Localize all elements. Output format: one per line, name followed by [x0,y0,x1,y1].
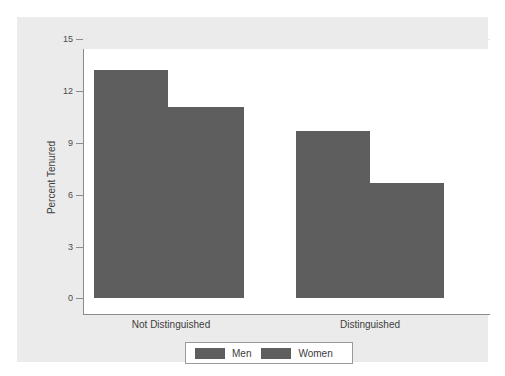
chart-panel: 15 12 9 6 3 0 Percent Tenured Not Distin… [17,17,488,362]
legend-swatch-men [195,348,225,359]
legend-label-men: Men [232,348,251,359]
chart-figure: 15 12 9 6 3 0 Percent Tenured Not Distin… [0,0,505,376]
y-tick-label-12-wrap: 12 [45,86,73,96]
chart-legend: Men Women [185,342,353,364]
y-tick-mark-9 [76,143,83,144]
y-tick-label-12: 12 [49,86,73,96]
bar-distinguished-women [370,183,444,298]
y-tick-label-15-wrap: 15 [45,34,73,44]
y-axis-title: Percent Tenured [46,98,57,258]
y-tick-mark-15 [76,39,83,40]
legend-entry-men: Men [186,343,261,363]
y-tick-label-0: 0 [49,293,73,303]
y-tick-label-0-wrap: 0 [45,293,73,303]
x-tick-label-distinguished: Distinguished [298,319,442,330]
y-tick-mark-0 [76,298,83,299]
legend-label-women: Women [298,348,332,359]
legend-entry-women: Women [261,343,342,363]
gridline-15 [83,39,490,40]
y-tick-mark-3 [76,247,83,248]
bar-distinguished-men [296,131,370,298]
x-axis-line [83,314,490,315]
y-tick-mark-6 [76,195,83,196]
legend-swatch-women [261,348,291,359]
bar-not-distinguished-women [168,107,244,298]
y-tick-mark-12 [76,91,83,92]
x-tick-label-not-distinguished: Not Distinguished [99,319,243,330]
y-axis-line [83,49,84,315]
bar-not-distinguished-men [94,70,168,298]
y-tick-label-15: 15 [49,34,73,44]
